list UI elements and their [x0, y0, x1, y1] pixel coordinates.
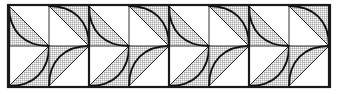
tile-cell	[129, 6, 169, 46]
tile-cell	[289, 6, 329, 46]
tile-cell	[129, 46, 169, 86]
figure-body	[8, 5, 330, 87]
tile-cell	[9, 6, 49, 46]
tile-cell	[209, 6, 249, 46]
tile-cell	[89, 46, 129, 86]
tile-cell	[249, 6, 289, 46]
tile-cell	[49, 6, 89, 46]
tile-cell	[169, 46, 209, 86]
tile-cell	[249, 46, 289, 86]
tile-cell	[289, 46, 329, 86]
tile-cell	[89, 6, 129, 46]
tile-cell	[9, 46, 49, 86]
pinwheel-figure-container: Pinwheel tiling of curved triangular til…	[0, 0, 337, 94]
tile-cell	[169, 6, 209, 46]
tile-cell	[209, 46, 249, 86]
tile-cell	[49, 46, 89, 86]
tiling-layer	[8, 5, 330, 87]
pinwheel-tiling-figure: Pinwheel tiling of curved triangular til…	[0, 0, 337, 94]
